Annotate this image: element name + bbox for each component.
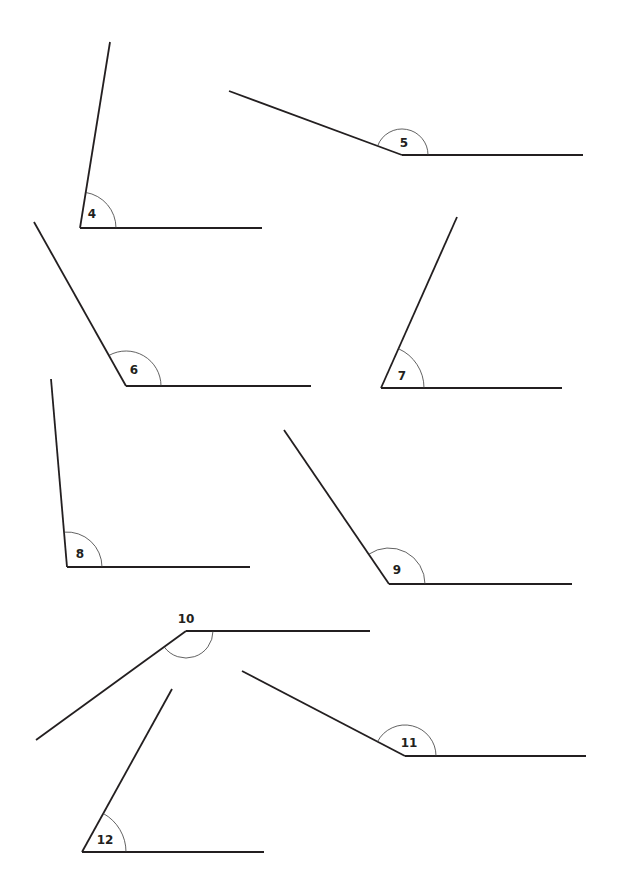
angle-ray (284, 430, 389, 584)
angle-ray (242, 671, 405, 756)
angle-worksheet: 456789101112 (0, 0, 626, 878)
angle-ray (80, 42, 110, 228)
angle-number-label: 9 (393, 563, 401, 577)
angle-ray (381, 217, 457, 388)
angle-figure-7: 7 (381, 217, 562, 388)
angle-number-label: 11 (401, 736, 418, 750)
angle-number-label: 12 (97, 833, 114, 847)
angle-number-label: 8 (76, 547, 84, 561)
angle-number-label: 4 (88, 207, 96, 221)
angle-figure-8: 8 (51, 379, 250, 567)
angle-figure-4: 4 (80, 42, 262, 228)
angle-ray (51, 379, 67, 567)
angle-figure-9: 9 (284, 430, 572, 584)
angle-number-label: 7 (398, 369, 406, 383)
angle-ray (229, 91, 402, 155)
angle-number-label: 6 (130, 363, 138, 377)
angle-ray (34, 222, 126, 386)
angle-arc (164, 631, 213, 658)
angle-figure-6: 6 (34, 222, 311, 386)
angle-figure-11: 11 (242, 671, 586, 756)
angle-number-label: 10 (178, 612, 195, 626)
angle-figure-5: 5 (229, 91, 583, 155)
angle-number-label: 5 (400, 136, 408, 150)
angle-figure-12: 12 (82, 689, 264, 852)
angle-figure-10: 10 (36, 612, 370, 740)
angle-ray (36, 631, 186, 740)
angle-ray (82, 689, 172, 852)
